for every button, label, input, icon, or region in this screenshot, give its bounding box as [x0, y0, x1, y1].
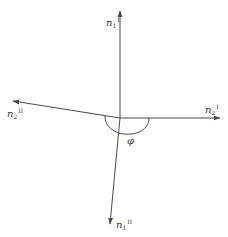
label-n2-I-sup: I [216, 103, 218, 110]
label-n1-I-sub: 1 [112, 22, 116, 29]
label-n2-II-sub: 2 [13, 113, 17, 120]
label-n1-I-sup: I [117, 16, 119, 23]
label-n2-II-sup: II [18, 107, 23, 114]
label-n2-I: n2I [205, 104, 219, 116]
label-n1-II-sup: II [127, 218, 132, 225]
label-n2-I-sub: 2 [211, 109, 215, 116]
vector-n2-II-arrow [13, 101, 120, 118]
vector-n1-II-arrow [110, 118, 120, 224]
label-n2-II: n2II [7, 108, 23, 120]
label-n1-I: n1I [106, 17, 120, 29]
label-n1-II: n1II [116, 219, 132, 231]
label-n1-II-sub: 1 [122, 224, 126, 231]
label-angle-phi: φ [127, 136, 134, 146]
vector-diagram [0, 0, 228, 237]
angle-arc-phi [105, 116, 149, 134]
